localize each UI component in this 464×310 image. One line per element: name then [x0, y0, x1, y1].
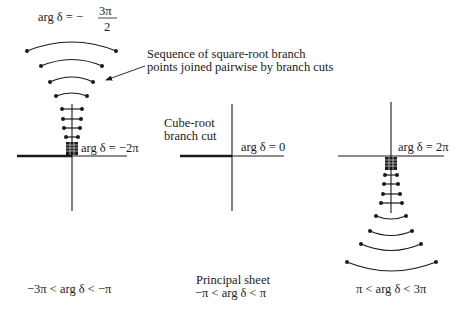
right-axis-label: arg δ = 2π	[398, 140, 449, 154]
right-range-label: π < arg δ < 3π	[356, 282, 427, 296]
right-sheet-panel: arg δ = 2π π < arg δ < 3π	[338, 102, 449, 296]
left-top-label-numerator: 3π	[99, 4, 112, 18]
left-sheet-panel: arg δ = − 3π 2 arg δ = −2π −3π < arg δ <…	[17, 4, 139, 296]
middle-range-label: −π < arg δ < π	[195, 286, 267, 300]
annotation-arrow-icon	[106, 66, 145, 80]
branch-points-annotation: Sequence of square-root branch points jo…	[106, 47, 334, 80]
branch-cut-diagram: arg δ = − 3π 2 arg δ = −2π −3π < arg δ <…	[0, 0, 464, 310]
annotation-line-2: points joined pairwise by branch cuts	[147, 60, 334, 74]
left-axis-label: arg δ = −2π	[81, 141, 139, 155]
principal-sheet-panel: Cube-root branch cut arg δ = 0 Principal…	[164, 104, 285, 300]
cut-label-line-1: Cube-root	[164, 116, 215, 130]
left-range-label: −3π < arg δ < −π	[27, 282, 112, 296]
principal-sheet-title: Principal sheet	[196, 273, 270, 287]
left-top-label-prefix: arg δ = −	[38, 10, 83, 24]
annotation-line-1: Sequence of square-root branch	[147, 47, 306, 61]
cut-label-line-2: branch cut	[164, 129, 217, 143]
middle-axis-label: arg δ = 0	[241, 140, 285, 154]
left-top-label-denominator: 2	[104, 20, 110, 34]
